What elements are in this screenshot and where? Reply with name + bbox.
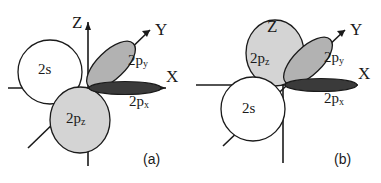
orbital-label-2px: 2px	[129, 94, 149, 110]
orbital-label-2px-text: 2p	[129, 93, 144, 109]
px-orbital-shape	[285, 79, 357, 92]
orbital-label-2py: 2py	[128, 53, 148, 69]
axis-label-x: X	[358, 65, 370, 82]
orbital-label-2s-text: 2s	[242, 100, 255, 116]
orbital-label-2pz: 2pz	[250, 51, 269, 67]
panel-b: Z Y X 2pz 2py 2px 2s (b)	[190, 0, 380, 183]
orbital-label-2py-text: 2p	[128, 52, 143, 68]
axis-label-z: Z	[267, 18, 277, 35]
panel-caption-a: (a)	[143, 152, 160, 166]
orbital-label-2px-subscript: x	[339, 96, 344, 107]
axis-label-y: Y	[350, 21, 362, 38]
orbital-label-2py: 2py	[324, 50, 344, 66]
orbital-label-2px: 2px	[324, 91, 344, 107]
orbital-label-2pz: 2pz	[66, 111, 85, 127]
orbital-label-2s-text: 2s	[38, 61, 51, 77]
panel-caption-b: (b)	[334, 152, 351, 166]
orbital-label-2pz-subscript: z	[265, 56, 269, 67]
orbital-label-2s: 2s	[38, 62, 51, 77]
orbital-label-2py-subscript: y	[339, 55, 344, 66]
panel-a: Z Y X 2s 2py 2px 2pz (a)	[0, 0, 190, 183]
orbital-label-2s: 2s	[242, 101, 255, 116]
orbital-label-2px-text: 2p	[324, 90, 339, 106]
orbital-label-2py-text: 2p	[324, 49, 339, 65]
orbital-label-2pz-text: 2p	[250, 50, 265, 66]
axis-label-x: X	[166, 68, 178, 85]
orbital-label-2py-subscript: y	[143, 58, 148, 69]
axis-label-y: Y	[155, 21, 167, 38]
orbital-label-2px-subscript: x	[144, 99, 149, 110]
px-orbital-shape	[89, 82, 161, 95]
orbital-label-2pz-text: 2p	[66, 110, 81, 126]
orbital-diagram-figure: Z Y X 2s 2py 2px 2pz (a)	[0, 0, 381, 183]
axis-label-z: Z	[72, 14, 82, 31]
orbital-label-2pz-subscript: z	[81, 116, 85, 127]
